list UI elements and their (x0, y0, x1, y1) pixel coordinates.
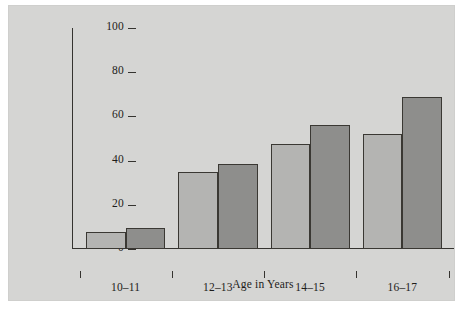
x-tick-3 (449, 271, 450, 278)
x-tick-0 (172, 271, 173, 278)
bar-14-15-series-2 (310, 125, 350, 249)
x-tick-origin (80, 271, 81, 278)
bar-16-17-series-2 (402, 97, 442, 249)
y-tick-label: 40 (112, 153, 124, 165)
bar-16-17-series-1 (363, 134, 403, 249)
y-tick-20: 20 (128, 205, 136, 206)
y-tick-100: 100 (128, 28, 136, 29)
x-tick-2 (356, 271, 357, 278)
chart-panel: Adolescents Who Tried Smoking (%) 020406… (8, 5, 455, 301)
y-tick-label: 20 (112, 197, 124, 209)
figure: Adolescents Who Tried Smoking (%) 020406… (0, 0, 463, 310)
y-tick-60: 60 (128, 116, 136, 117)
x-axis-title: Age in Years (72, 278, 454, 290)
y-tick-label: 60 (112, 108, 124, 120)
bar-10-11-series-1 (86, 232, 126, 249)
y-tick-80: 80 (128, 72, 136, 73)
y-tick-0: 0 (128, 249, 136, 250)
bar-10-11-series-2 (126, 228, 166, 249)
bar-12-13-series-2 (218, 164, 258, 249)
y-tick-label: 80 (112, 64, 124, 76)
x-tick-1 (264, 271, 265, 278)
y-tick-label: 100 (106, 20, 124, 32)
bar-14-15-series-1 (271, 144, 311, 249)
bar-12-13-series-1 (178, 172, 218, 249)
y-tick-40: 40 (128, 161, 136, 162)
plot-area: 020406080100 10–1112–1314–1516–17 (72, 28, 454, 249)
